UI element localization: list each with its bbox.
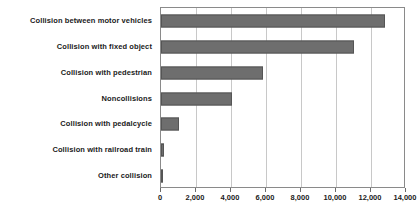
category-label: Collision with pedalcycle — [0, 119, 152, 128]
x-tick — [335, 188, 336, 192]
gridline — [301, 8, 302, 187]
category-label: Collision with pedestrian — [0, 67, 152, 76]
bar — [161, 144, 164, 157]
x-tick — [230, 188, 231, 192]
x-tick-label: 4,000 — [221, 193, 240, 202]
category-axis-labels: Collision between motor vehicles Collisi… — [0, 7, 152, 188]
bar — [161, 170, 163, 183]
category-label: Noncollisions — [0, 93, 152, 102]
x-tick-label: 2,000 — [186, 193, 205, 202]
gridline — [336, 8, 337, 187]
bar — [161, 118, 179, 131]
x-tick — [370, 188, 371, 192]
x-tick-label: 0 — [158, 193, 162, 202]
gridline — [371, 8, 372, 187]
bar-chart: Collision between motor vehicles Collisi… — [0, 0, 420, 214]
x-tick-label: 8,000 — [291, 193, 310, 202]
x-tick-label: 10,000 — [324, 193, 347, 202]
x-tick-label: 14,000 — [394, 193, 417, 202]
category-label: Collision with railroad train — [0, 145, 152, 154]
category-label: Collision between motor vehicles — [0, 15, 152, 24]
x-tick-label: 6,000 — [256, 193, 275, 202]
x-tick-label: 12,000 — [359, 193, 382, 202]
x-tick — [195, 188, 196, 192]
gridline — [266, 8, 267, 187]
bar — [161, 40, 354, 53]
bar — [161, 92, 232, 105]
x-tick — [405, 188, 406, 192]
category-label: Other collision — [0, 171, 152, 180]
x-tick — [160, 188, 161, 192]
x-tick — [265, 188, 266, 192]
x-tick — [300, 188, 301, 192]
bar — [161, 66, 263, 79]
bar — [161, 14, 385, 27]
category-label: Collision with fixed object — [0, 41, 152, 50]
plot-area — [160, 7, 405, 188]
